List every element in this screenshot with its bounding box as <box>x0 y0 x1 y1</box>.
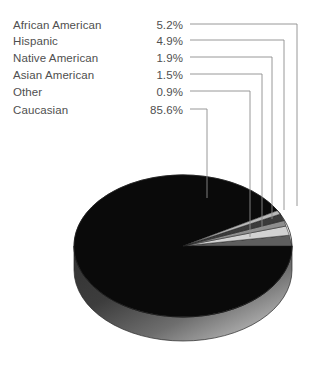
legend-row: Other 0.9% <box>0 85 200 100</box>
leader-line-asian-american <box>190 74 262 227</box>
leader-line-native-american <box>190 57 272 219</box>
chart-legend: African American 5.2% Hispanic 4.9% Nati… <box>0 0 200 125</box>
legend-row: Hispanic 4.9% <box>0 34 200 49</box>
legend-item-label: Native American <box>13 51 98 66</box>
legend-item-label: Hispanic <box>13 34 58 49</box>
legend-item-value: 85.6% <box>100 103 190 118</box>
legend-row: Native American 1.9% <box>0 51 200 66</box>
legend-item-value: 4.9% <box>100 34 190 49</box>
legend-item-value: 1.9% <box>100 51 190 66</box>
legend-item-label: Other <box>13 85 42 100</box>
leader-line-hispanic <box>190 40 284 210</box>
legend-row: Asian American 1.5% <box>0 68 200 83</box>
pie-chart-figure: African American 5.2% Hispanic 4.9% Nati… <box>0 0 315 370</box>
legend-item-value: 0.9% <box>100 85 190 100</box>
legend-row: African American 5.2% <box>0 18 200 33</box>
leader-line-african-american <box>190 24 297 206</box>
legend-item-value: 5.2% <box>100 18 190 33</box>
legend-row: Caucasian 85.6% <box>0 103 200 118</box>
legend-item-label: Caucasian <box>13 103 68 118</box>
legend-item-label: African American <box>13 18 102 33</box>
legend-item-label: Asian American <box>13 68 94 83</box>
legend-item-value: 1.5% <box>100 68 190 83</box>
